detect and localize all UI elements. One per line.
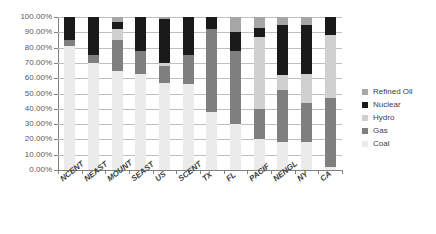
bar-segment-nuclear <box>206 17 217 29</box>
x-tick-mark <box>176 170 177 174</box>
bar-segment-gas <box>254 109 265 140</box>
legend-item-nuclear[interactable]: Nuclear <box>362 98 436 111</box>
bar-segment-gas <box>277 90 288 142</box>
bar-segment-nuclear <box>135 17 146 51</box>
bar-segment-coal <box>135 74 146 170</box>
bar-segment-nuclear <box>254 28 265 37</box>
y-tick-mark <box>54 155 58 156</box>
bar-segment-hydro <box>277 75 288 90</box>
legend-label: Gas <box>373 127 388 135</box>
bar-segment-gas <box>159 66 170 83</box>
bar-segment-coal <box>206 112 217 170</box>
x-axis-label-ca: CA <box>319 170 333 183</box>
y-tick-label: 0.00% <box>29 166 52 174</box>
bar-nengl <box>277 17 288 170</box>
x-axis-label-ny: NY <box>296 170 310 183</box>
x-tick-mark <box>247 170 248 174</box>
y-tick-label: 30.00% <box>25 120 52 128</box>
bar-segment-coal <box>301 142 312 170</box>
bar-segment-gas <box>230 51 241 124</box>
gridline <box>58 78 342 79</box>
bar-segment-gas <box>183 55 194 84</box>
bar-segment-gas <box>135 51 146 74</box>
bar-neast <box>88 17 99 170</box>
bar-segment-gas <box>301 103 312 143</box>
bar-ncent <box>64 17 75 170</box>
gridline <box>58 139 342 140</box>
bar-segment-refined-oil <box>230 17 241 32</box>
gridline <box>58 94 342 95</box>
bar-segment-hydro <box>159 63 170 66</box>
bar-scent <box>183 17 194 170</box>
y-axis-labels: 100.00%90.00%80.00%70.00%60.00%50.00%40.… <box>0 0 52 234</box>
y-tick-label: 60.00% <box>25 74 52 82</box>
legend-item-refined-oil[interactable]: Refined Oil <box>362 85 436 98</box>
x-tick-mark <box>342 170 343 174</box>
legend-item-gas[interactable]: Gas <box>362 124 436 137</box>
plot-area <box>58 17 342 170</box>
bar-segment-coal <box>183 84 194 170</box>
x-tick-mark <box>295 170 296 174</box>
y-tick-mark <box>54 63 58 64</box>
bar-segment-refined-oil <box>254 17 265 28</box>
x-tick-mark <box>129 170 130 174</box>
x-tick-mark <box>224 170 225 174</box>
bar-segment-nuclear <box>230 32 241 50</box>
bar-pacif <box>254 17 265 170</box>
bar-segment-nuclear <box>112 22 123 30</box>
gridline <box>58 48 342 49</box>
bar-segment-gas <box>64 40 75 46</box>
bar-segment-gas <box>88 55 99 63</box>
bar-segment-gas <box>112 40 123 71</box>
x-tick-mark <box>82 170 83 174</box>
bar-segment-nuclear <box>88 17 99 55</box>
y-tick-label: 10.00% <box>25 151 52 159</box>
bar-segment-coal <box>230 124 241 170</box>
x-axis-label-tx: TX <box>201 171 214 184</box>
gridline <box>58 17 342 18</box>
bar-segment-refined-oil <box>159 17 170 19</box>
y-tick-mark <box>54 109 58 110</box>
bar-segment-coal <box>159 83 170 170</box>
y-tick-label: 50.00% <box>25 90 52 98</box>
x-tick-mark <box>105 170 106 174</box>
legend-label: Hydro <box>373 114 394 122</box>
y-tick-mark <box>54 94 58 95</box>
bar-segment-refined-oil <box>112 17 123 22</box>
gridline <box>58 63 342 64</box>
bar-mount <box>112 17 123 170</box>
x-tick-mark <box>153 170 154 174</box>
x-axis-label-us: US <box>154 170 168 183</box>
legend-label: Refined Oil <box>373 88 413 96</box>
bar-us <box>159 17 170 170</box>
legend-item-hydro[interactable]: Hydro <box>362 111 436 124</box>
x-tick-mark <box>58 170 59 174</box>
bar-segment-nuclear <box>159 19 170 63</box>
legend-item-coal[interactable]: Coal <box>362 137 436 150</box>
bar-fl <box>230 17 241 170</box>
bar-segment-gas <box>325 98 336 167</box>
bar-segment-hydro <box>325 35 336 98</box>
bar-segment-refined-oil <box>277 17 288 25</box>
bar-segment-coal <box>88 63 99 170</box>
y-tick-label: 70.00% <box>25 59 52 67</box>
bar-segment-nuclear <box>301 25 312 74</box>
y-tick-label: 100.00% <box>20 13 52 21</box>
y-tick-mark <box>54 170 58 171</box>
bar-segment-hydro <box>254 37 265 109</box>
bar-segment-coal <box>64 46 75 170</box>
bar-tx <box>206 17 217 170</box>
chart-legend: Refined OilNuclearHydroGasCoal <box>362 85 436 150</box>
y-tick-label: 40.00% <box>25 105 52 113</box>
legend-swatch-icon <box>362 115 368 121</box>
chart-container: 100.00%90.00%80.00%70.00%60.00%50.00%40.… <box>0 0 436 234</box>
y-tick-mark <box>54 124 58 125</box>
x-axis-label-fl: FL <box>225 171 238 183</box>
bar-segment-hydro <box>112 29 123 40</box>
legend-label: Coal <box>373 140 389 148</box>
y-tick-label: 90.00% <box>25 28 52 36</box>
bar-segment-gas <box>206 29 217 112</box>
bar-segment-hydro <box>301 74 312 103</box>
legend-swatch-icon <box>362 141 368 147</box>
legend-swatch-icon <box>362 102 368 108</box>
